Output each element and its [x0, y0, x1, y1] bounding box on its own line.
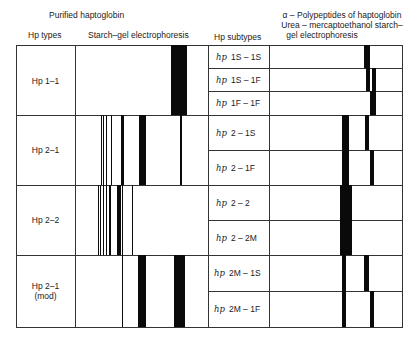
hp-prefix: hp [216, 52, 227, 62]
hp-subtype-label: hp2 – 1S [216, 128, 256, 138]
gel-band [174, 255, 185, 327]
hp-type-label: Hp 2–1 [16, 145, 75, 155]
alpha-band-1s [364, 45, 370, 68]
gel-electrophoresis-title: gel electrophoresis [262, 30, 382, 40]
hp-subtype-label: hp2M – 1F [214, 304, 260, 314]
gel-band [139, 115, 146, 185]
purified-haptoglobin-title: Purified haptoglobin [49, 10, 124, 20]
hp-type-label-mod: (mod) [16, 291, 75, 301]
alpha-band-1f [370, 150, 374, 185]
gel-band-thin [111, 115, 112, 185]
hp-subtype-label: hp1S – 1S [216, 52, 261, 62]
gel-band-thin [101, 115, 102, 185]
hp-prefix: hp [216, 163, 227, 173]
hp-prefix: hp [216, 198, 227, 208]
hp-subtype-label: hp2 – 1F [216, 163, 255, 173]
subrow-divider [208, 220, 403, 221]
hp-subtype-label: hp1F – 1F [216, 98, 260, 108]
gel-band [180, 115, 182, 185]
hp-prefix: hp [216, 233, 227, 243]
column-divider [269, 45, 270, 328]
urea-mercaptoethanol-title: Urea – mercaptoethanol starch– [272, 20, 412, 30]
gel-band-thin [100, 185, 101, 255]
gel-band [138, 255, 146, 327]
alpha-polypeptides-title: α – Polypeptides of haptoglobin [272, 10, 412, 20]
alpha-band-1f [372, 68, 376, 91]
alpha-band-1f [370, 91, 376, 115]
hp-prefix: hp [214, 268, 225, 278]
gel-band-thin [98, 185, 99, 255]
alpha-band-2m [342, 255, 346, 291]
gel-band-thin [106, 115, 107, 185]
gel-band [117, 185, 121, 255]
hp-types-header: Hp types [28, 30, 62, 40]
hp-type-label: Hp 2–2 [16, 215, 75, 225]
gel-band-thin [122, 185, 123, 255]
starch-gel-header: Starch–gel electrophoresis [88, 30, 189, 40]
gel-band-thin [122, 255, 123, 327]
gel-band-thin [103, 115, 104, 185]
gel-band [132, 185, 133, 255]
gel-band [109, 185, 111, 255]
hp-prefix: hp [216, 128, 227, 138]
hp-subtype-label: hp1S – 1F [216, 75, 261, 85]
gel-band-thin [103, 185, 104, 255]
hp-type-label: Hp 2–1 [16, 281, 75, 291]
column-divider [208, 45, 209, 328]
alpha-band-1s [365, 115, 369, 150]
hp-prefix: hp [216, 75, 227, 85]
gel-band [121, 115, 124, 185]
alpha-band-2 [342, 115, 349, 150]
hp-type-label: Hp 1–1 [16, 76, 75, 86]
alpha-band-1s [366, 68, 370, 91]
hp-prefix: hp [216, 98, 227, 108]
gel-band-thin [106, 185, 107, 255]
alpha-band-2 [340, 220, 352, 255]
alpha-band-2m [342, 291, 346, 327]
column-divider [75, 45, 76, 328]
hp-subtypes-header: Hp subtypes [214, 32, 261, 42]
alpha-band-1s [364, 255, 369, 291]
hp-prefix: hp [214, 304, 225, 314]
table-right-border [402, 45, 403, 328]
hp-subtype-label: hp2 – 2M [216, 233, 257, 243]
gel-band [171, 45, 187, 115]
alpha-band-1f [370, 291, 374, 327]
alpha-band-2 [342, 150, 349, 185]
hp-subtype-label: hp2M – 1S [214, 268, 261, 278]
alpha-band-2 [340, 185, 352, 220]
hp-subtype-label: hp2 – 2 [216, 198, 250, 208]
